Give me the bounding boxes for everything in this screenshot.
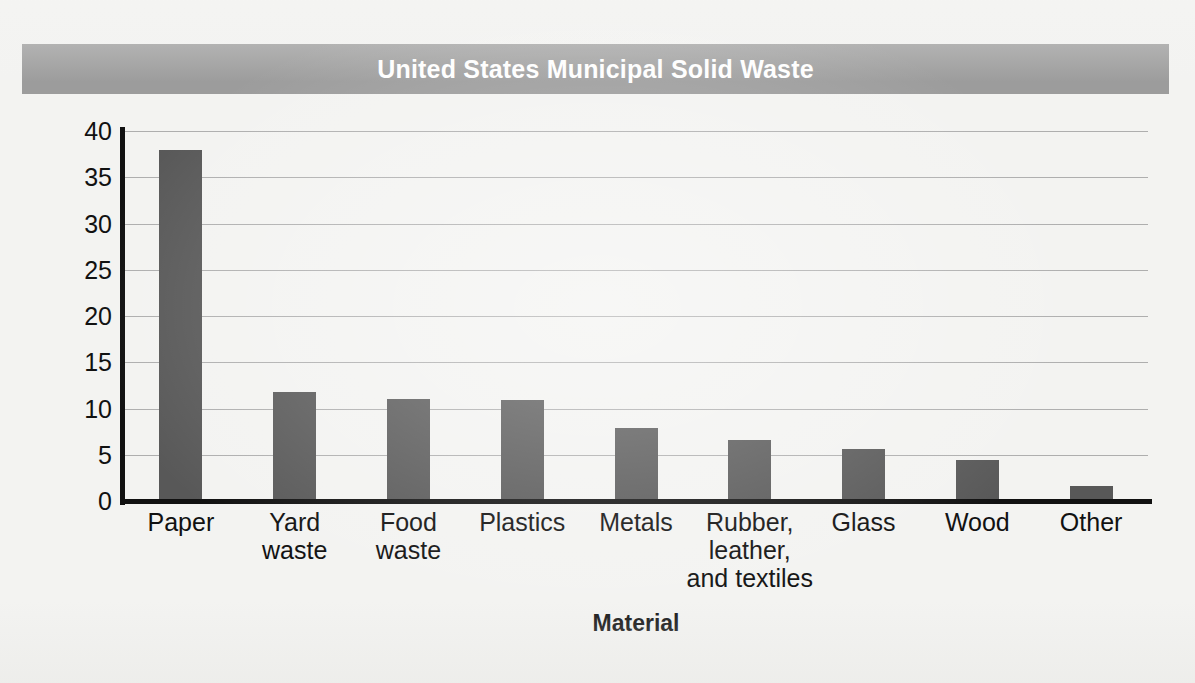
plot-area [124,131,1148,501]
bar [842,449,885,501]
bar [387,399,430,501]
bar-chart: Total Waste (%) 0510152025303540 PaperYa… [0,100,1195,683]
x-axis-tick-label: Other [1016,508,1166,536]
gridline [124,224,1148,225]
bar [728,440,771,501]
gridline [124,362,1148,363]
x-axis-title: Material [124,610,1148,637]
x-axis-line [120,499,1152,504]
bar [615,428,658,501]
y-axis-line [120,127,125,505]
bar [501,400,544,501]
bar [956,460,999,501]
y-axis-tick-label: 10 [22,394,112,423]
y-axis-tick-label: 30 [22,209,112,238]
y-axis-tick-label: 40 [22,117,112,146]
bar [159,150,202,502]
y-axis-tick-label: 0 [22,487,112,516]
page-title: United States Municipal Solid Waste [377,55,814,84]
chart-title-banner: United States Municipal Solid Waste [22,44,1169,94]
y-axis-tick-label: 5 [22,440,112,469]
bar [273,392,316,501]
gridline [124,177,1148,178]
gridline [124,270,1148,271]
gridline [124,131,1148,132]
gridline [124,316,1148,317]
y-axis-tick-label: 20 [22,302,112,331]
chart-page: United States Municipal Solid Waste Tota… [0,0,1195,683]
y-axis-tick-label: 35 [22,163,112,192]
y-axis-tick-label: 25 [22,255,112,284]
y-axis-tick-label: 15 [22,348,112,377]
